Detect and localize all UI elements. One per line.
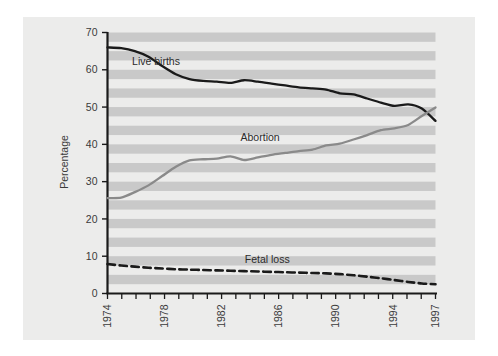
y-axis-tick-label: 40 (86, 138, 98, 150)
grid-band (108, 238, 436, 247)
y-axis-tick-label: 70 (86, 26, 98, 38)
y-axis-tick-label: 10 (86, 250, 98, 262)
y-axis-ticks: 010203040506070 (86, 26, 108, 299)
x-axis-tick-label: 1994 (387, 304, 399, 328)
grid-band (108, 88, 436, 97)
grid-band (108, 200, 436, 209)
x-axis-tick-label: 1990 (329, 304, 341, 328)
figure-root: 010203040506070 197419781982198619901994… (0, 0, 498, 356)
series-label-abortion: Abortion (241, 131, 280, 143)
series-label-live-births: Live births (132, 55, 180, 67)
grid-band (108, 163, 436, 172)
grid-band (108, 219, 436, 228)
series-label-fetal-loss: Fetal loss (245, 253, 290, 265)
y-axis-tick-label: 20 (86, 213, 98, 225)
y-axis-tick-label: 50 (86, 101, 98, 113)
grid-band (108, 33, 436, 42)
y-axis-title: Percentage (58, 135, 70, 189)
grid-band (108, 144, 436, 153)
x-axis-tick-label: 1974 (101, 304, 113, 328)
x-axis-tick-label: 1997 (429, 304, 441, 328)
x-axis-tick-label: 1982 (215, 304, 227, 328)
x-axis-tick-label: 1986 (272, 304, 284, 328)
y-axis-tick-label: 60 (86, 63, 98, 75)
horizontal-band-grid (108, 33, 436, 285)
y-axis-tick-label: 30 (86, 175, 98, 187)
grid-band (108, 70, 436, 79)
line-chart: 010203040506070 197419781982198619901994… (0, 0, 498, 356)
x-axis-tick-label: 1978 (158, 304, 170, 328)
y-axis-tick-label: 0 (92, 287, 98, 299)
grid-band (108, 107, 436, 116)
x-axis-ticks: 1974197819821986199019941997 (101, 294, 441, 328)
grid-band (108, 182, 436, 191)
series-annotations: Live birthsAbortionFetal loss (132, 55, 290, 265)
